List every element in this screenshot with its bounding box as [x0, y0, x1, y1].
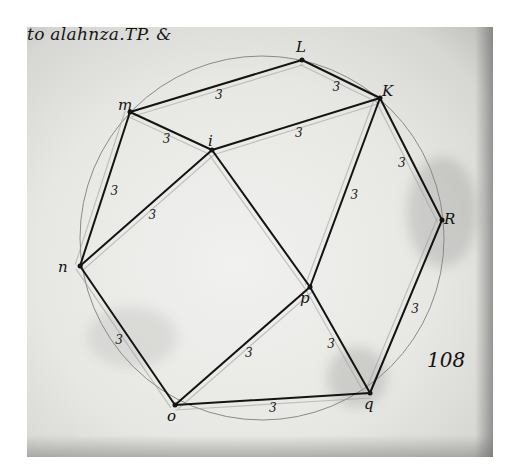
vertex-label-m: m — [118, 96, 132, 114]
edge-length-label: 3 — [245, 346, 253, 360]
vertex-label-R: R — [444, 210, 455, 228]
vertex-L — [300, 58, 305, 63]
manuscript-heading: to alahnza.TP. & — [27, 24, 172, 44]
edge-length-label: 3 — [327, 337, 335, 351]
edge-length-label: 3 — [163, 132, 171, 146]
vertex-n — [78, 264, 83, 269]
geometric-figure — [0, 0, 516, 475]
edge-K-p — [310, 98, 380, 287]
edge-length-label: 3 — [350, 188, 358, 202]
edge-K-R — [380, 98, 442, 220]
edge-n-o — [80, 266, 175, 405]
edge-m-L — [130, 60, 302, 112]
vertex-label-p: p — [300, 289, 310, 307]
edge-length-label: 3 — [411, 302, 419, 316]
edge-p-q — [310, 287, 370, 393]
edge-length-label: 3 — [398, 156, 406, 170]
edge-length-label: 3 — [269, 401, 277, 415]
construction-line — [208, 153, 306, 290]
vertex-label-K: K — [382, 82, 393, 100]
construction-line — [376, 100, 438, 222]
edge-length-label: 3 — [333, 80, 341, 94]
construction-line — [306, 289, 366, 395]
vertex-label-L: L — [296, 38, 306, 56]
edge-length-label: 3 — [149, 208, 157, 222]
construction-line — [305, 96, 375, 285]
edge-m-i — [130, 112, 212, 150]
vertex-label-q: q — [364, 395, 374, 413]
vertex-label-o: o — [167, 407, 176, 425]
edge-L-K — [302, 60, 380, 98]
edge-o-p — [175, 287, 310, 405]
construction-line — [76, 269, 171, 408]
edge-i-K — [212, 98, 380, 150]
folio-number: 108 — [427, 348, 465, 372]
edge-length-label: 3 — [111, 184, 119, 198]
vertex-label-n: n — [58, 258, 68, 276]
edge-length-label: 3 — [295, 126, 303, 140]
edge-i-p — [212, 150, 310, 287]
edge-length-label: 3 — [215, 88, 223, 102]
edge-length-label: 3 — [115, 333, 123, 347]
vertex-label-i: i — [208, 132, 213, 150]
